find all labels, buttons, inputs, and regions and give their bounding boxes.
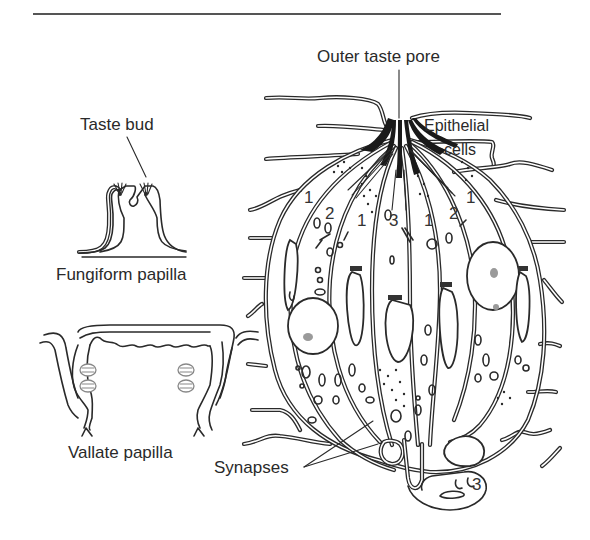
cell-type-marker: 1 [357,212,366,229]
cell-type-marker: 1 [466,189,475,206]
epithelial-cells-label-line2: cells [444,142,476,158]
vallate-papilla-label: Vallate papilla [68,444,173,461]
cell-type-marker: 2 [449,205,458,222]
cell-type-marker: 1 [424,212,433,229]
epithelial-cells-label-line1: Epithelial [424,118,489,134]
outer-taste-pore-label: Outer taste pore [317,48,440,65]
cell-type-marker: 1 [304,189,313,206]
taste-bud-cross-section [244,70,564,510]
taste-bud-label: Taste bud [80,116,154,133]
cell-nuclei [284,240,529,466]
cell-type-marker: 2 [325,205,334,222]
vallate-papilla-drawing [40,325,258,436]
cell-type-marker: 3 [472,476,481,493]
synapses-label: Synapses [214,459,289,476]
fungiform-papilla-label: Fungiform papilla [56,266,186,283]
fungiform-papilla-drawing [79,137,186,257]
vallate-taste-buds [80,364,194,392]
cell-type-marker: 3 [389,212,398,229]
